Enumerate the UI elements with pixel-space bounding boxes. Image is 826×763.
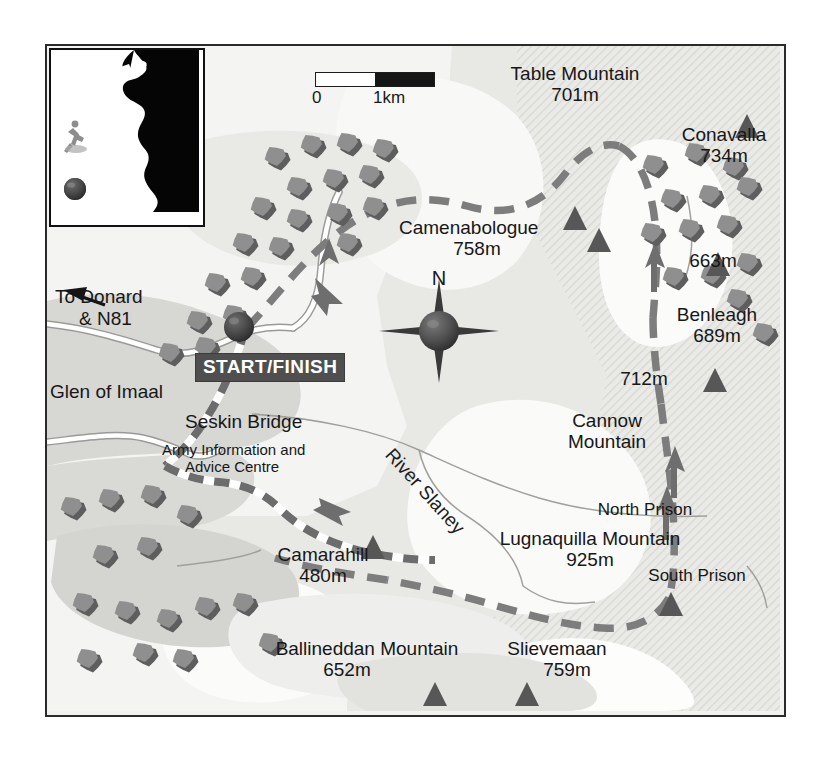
label-table-mountain: Table Mountain [485, 63, 665, 84]
label-peak-663: 663m [667, 250, 759, 271]
map-frame: 0 1km Table Mountain 701m Conavalla 734m… [45, 44, 786, 717]
label-cannow-mountain-line2: Mountain [537, 431, 677, 452]
scale-bar-graphic [315, 72, 435, 87]
label-camarahill-elevation: 480m [239, 565, 407, 586]
label-ballineddan: Ballineddan Mountain [237, 638, 497, 659]
label-benleagh-elevation: 689m [647, 325, 786, 346]
label-slievemaan: Slievemaan [477, 638, 637, 659]
label-camarahill: Camarahill [239, 544, 407, 565]
label-camenabologue: Camenabologue [399, 217, 538, 238]
start-finish-label: START/FINISH [195, 353, 345, 382]
label-army-centre-line1: Army Information and [162, 441, 305, 458]
label-slievemaan-elevation: 759m [497, 659, 637, 680]
inset-locator-map [49, 48, 205, 227]
compass-north-label: N [425, 268, 453, 289]
label-glen-of-imaal: Glen of Imaal [50, 381, 163, 402]
scale-label-one-km: 1km [373, 88, 405, 108]
label-seskin-bridge: Seskin Bridge [185, 411, 302, 432]
label-table-mountain-elevation: 701m [485, 84, 665, 105]
label-cannow-mountain-line1: Cannow [537, 410, 677, 431]
scale-label-zero: 0 [312, 88, 321, 108]
scale-bar-black-segment [375, 73, 434, 86]
label-to-donard-line2: & N81 [79, 308, 132, 329]
scale-bar-white-segment [316, 73, 375, 86]
label-benleagh: Benleagh [647, 304, 786, 325]
scale-bar: 0 1km [315, 72, 435, 106]
label-ballineddan-elevation: 652m [237, 659, 457, 680]
label-army-centre-line2: Advice Centre [185, 458, 279, 475]
label-lugnaquilla: Lugnaquilla Mountain [471, 528, 709, 549]
map-screenshot: 0 1km Table Mountain 701m Conavalla 734m… [0, 0, 826, 763]
label-north-prison: North Prison [575, 500, 715, 519]
label-peak-712: 712m [599, 368, 689, 389]
scale-bar-labels: 0 1km [315, 88, 435, 106]
start-finish-marker [224, 312, 254, 342]
label-camenabologue-elevation: 758m [399, 238, 555, 259]
label-conavalla-elevation: 734m [639, 145, 786, 166]
label-conavalla: Conavalla [639, 124, 786, 145]
label-south-prison: South Prison [627, 566, 767, 585]
label-to-donard-line1: To Donard [55, 286, 143, 307]
